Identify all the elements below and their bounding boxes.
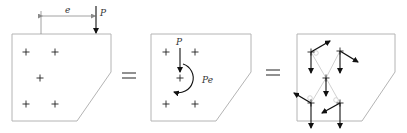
plate-outline <box>297 34 395 121</box>
plate-outline <box>12 34 111 121</box>
right-angle-marker <box>308 96 313 101</box>
right-angle-marker <box>334 98 339 103</box>
diagram-canvas: e P P Pe <box>0 0 407 133</box>
load-label-p: P <box>175 37 183 47</box>
panel-eccentric-load: e P <box>12 5 111 121</box>
moment-label-pe: Pe <box>201 75 213 85</box>
panel-direct-load-and-moment: P Pe <box>151 34 251 121</box>
load-label-p: P <box>99 8 107 18</box>
equals-sign <box>266 70 280 75</box>
panel-bolt-force-components <box>294 34 395 128</box>
eccentricity-dimension: e <box>41 5 95 34</box>
load-arrow-p: P <box>96 6 107 33</box>
plate-outline <box>151 34 251 121</box>
dimension-label-e: e <box>65 5 70 15</box>
right-angle-marker <box>314 51 319 56</box>
equals-sign <box>122 73 136 78</box>
